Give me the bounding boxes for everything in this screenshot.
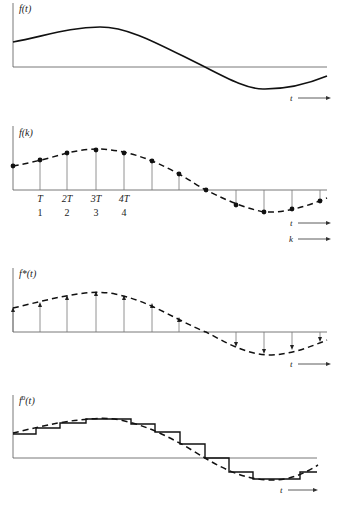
sample-stems	[40, 150, 320, 212]
svg-text:4: 4	[122, 207, 127, 218]
y-axis-label: f*(t)	[19, 268, 37, 280]
envelope-dashed-curve	[13, 149, 327, 212]
envelope-dashed-curve	[13, 292, 327, 355]
index-tick-labels: 1 2 3 4	[38, 207, 127, 218]
svg-text:2T: 2T	[62, 193, 74, 204]
time-tick-labels: T 2T 3T 4T	[37, 193, 131, 204]
impulse-arrows	[11, 291, 322, 354]
sample-dots	[11, 148, 323, 215]
panel-impulse-sampled: f*(t) t	[11, 268, 331, 369]
y-axis-label: f(k)	[19, 127, 34, 139]
svg-text:2: 2	[65, 207, 70, 218]
svg-text:3: 3	[94, 207, 99, 218]
svg-text:1: 1	[38, 207, 43, 218]
svg-text:t: t	[290, 93, 293, 103]
arrowhead-icon	[313, 488, 318, 492]
y-axis-label: f0(t)	[19, 394, 35, 407]
svg-text:k: k	[289, 234, 294, 244]
sampling-figure: f(t) t f(k)	[0, 0, 339, 512]
t-axis-arrow: t	[290, 218, 331, 228]
zero-order-hold-staircase	[13, 419, 317, 479]
t-axis-arrow: t	[290, 359, 331, 369]
panel-continuous: f(t) t	[13, 3, 331, 103]
panel-sampled-sequence: f(k) T	[11, 126, 331, 244]
t-axis-arrow: t	[280, 485, 318, 495]
t-axis-arrow: t	[290, 93, 331, 103]
y-axis-label: f(t)	[19, 3, 32, 15]
svg-text:4T: 4T	[119, 193, 131, 204]
svg-text:3T: 3T	[90, 193, 103, 204]
arrowhead-icon	[326, 96, 331, 100]
svg-text:T: T	[37, 193, 44, 204]
svg-text:t: t	[290, 359, 293, 369]
svg-text:t: t	[290, 218, 293, 228]
k-axis-arrow: k	[289, 234, 331, 244]
continuous-curve	[13, 27, 327, 89]
arrowhead-icon	[326, 221, 331, 225]
svg-text:t: t	[280, 485, 283, 495]
panel-zero-order-hold: f0(t) t	[13, 394, 318, 495]
arrowhead-icon	[326, 237, 331, 241]
arrowhead-icon	[326, 362, 331, 366]
